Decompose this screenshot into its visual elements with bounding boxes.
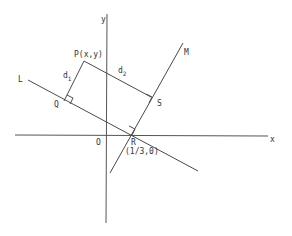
x-axis — [15, 135, 268, 136]
y-axis — [106, 14, 107, 223]
point-P-label: P(x,y) — [74, 50, 103, 59]
line-L — [28, 80, 198, 171]
coordinate-diagram: y x O L M P(x,y) Q S R (1/3,0) d1 d2 — [0, 0, 292, 236]
origin-label: O — [96, 138, 101, 147]
line-M-label: M — [184, 48, 189, 57]
distance-d1-label: d1 — [63, 71, 72, 82]
distance-d2-label: d2 — [118, 66, 127, 77]
d1-subscript: 1 — [68, 75, 72, 82]
y-axis-label: y — [101, 15, 106, 24]
x-axis-label: x — [270, 135, 275, 144]
point-Q-label: Q — [54, 100, 59, 109]
point-S-label: S — [157, 99, 162, 108]
line-L-label: L — [18, 75, 23, 84]
point-R-label: R — [131, 138, 136, 147]
d2-subscript: 2 — [123, 70, 127, 77]
point-R-coords: (1/3,0) — [125, 147, 159, 156]
